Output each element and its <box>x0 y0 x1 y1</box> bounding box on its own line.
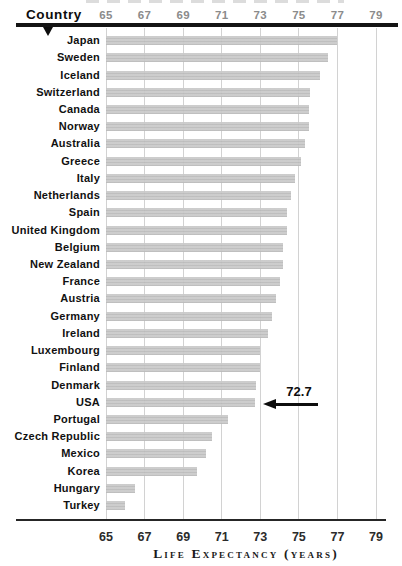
life-expectancy-chart: Country 6567697173757779 JapanSwedenIcel… <box>0 0 402 566</box>
gridline <box>144 28 145 520</box>
top-axis-rule <box>16 23 398 27</box>
bottom-axis-tick-label: 65 <box>92 530 120 544</box>
top-axis-tick-label: 69 <box>170 9 196 21</box>
cropped-title-remnant <box>86 0 344 3</box>
annotation-value: 72.7 <box>279 384 319 399</box>
bar <box>106 415 228 424</box>
country-label: Spain <box>0 206 100 219</box>
country-label: USA <box>0 396 100 409</box>
top-axis-tick-label: 71 <box>209 9 235 21</box>
gridline <box>221 28 222 520</box>
country-label: Portugal <box>0 413 100 426</box>
bar <box>106 260 283 269</box>
top-axis-tick-label: 75 <box>286 9 312 21</box>
country-column-header: Country <box>26 7 82 22</box>
gridline <box>183 28 184 520</box>
bar <box>106 432 212 441</box>
country-label: Belgium <box>0 241 100 254</box>
bottom-axis-tick-label: 73 <box>246 530 274 544</box>
bar <box>106 122 309 131</box>
country-label: Austria <box>0 292 100 305</box>
bottom-axis-tick-label: 75 <box>285 530 313 544</box>
country-label: Luxembourg <box>0 344 100 357</box>
bar <box>106 71 320 80</box>
gridline <box>298 28 299 520</box>
country-label: Hungary <box>0 482 100 495</box>
country-label: United Kingdom <box>0 224 100 237</box>
bottom-axis-tick-label: 69 <box>169 530 197 544</box>
bottom-axis-tick-label: 77 <box>323 530 351 544</box>
bar <box>106 157 301 166</box>
left-arrow-icon <box>263 399 276 409</box>
country-label: Korea <box>0 465 100 478</box>
country-label: Switzerland <box>0 86 100 99</box>
bar <box>106 36 337 45</box>
country-label: New Zealand <box>0 258 100 271</box>
bar <box>106 398 255 407</box>
bar <box>106 139 305 148</box>
bar <box>106 467 197 476</box>
country-label: Turkey <box>0 499 100 512</box>
country-label: Czech Republic <box>0 430 100 443</box>
bar <box>106 363 260 372</box>
country-label: Greece <box>0 155 100 168</box>
country-label: Japan <box>0 34 100 47</box>
bar <box>106 312 272 321</box>
country-label: Norway <box>0 120 100 133</box>
country-label: Italy <box>0 172 100 185</box>
country-label: Germany <box>0 310 100 323</box>
bar <box>106 88 310 97</box>
bar <box>106 346 260 355</box>
bar <box>106 105 309 114</box>
x-axis-title: Life Expectancy (years) <box>96 546 396 562</box>
country-label: Ireland <box>0 327 100 340</box>
bar <box>106 294 276 303</box>
bar <box>106 191 291 200</box>
country-label: Netherlands <box>0 189 100 202</box>
bar <box>106 277 280 286</box>
bottom-axis-rule <box>16 519 386 521</box>
country-label: Canada <box>0 103 100 116</box>
top-axis-tick-label: 73 <box>247 9 273 21</box>
bar <box>106 226 287 235</box>
gridline <box>106 28 107 520</box>
bar <box>106 174 295 183</box>
top-axis-tick-label: 65 <box>93 9 119 21</box>
bar <box>106 484 135 493</box>
country-label: Sweden <box>0 51 100 64</box>
country-label: Mexico <box>0 447 100 460</box>
gridline <box>376 28 377 520</box>
bar <box>106 243 283 252</box>
country-label: Iceland <box>0 69 100 82</box>
bar <box>106 381 256 390</box>
bottom-axis-tick-label: 79 <box>362 530 390 544</box>
country-label: Denmark <box>0 379 100 392</box>
top-axis-tick-label: 67 <box>132 9 158 21</box>
country-label: Finland <box>0 361 100 374</box>
bottom-axis-tick-label: 67 <box>131 530 159 544</box>
gridline <box>337 28 338 520</box>
bar <box>106 53 328 62</box>
top-axis-tick-label: 79 <box>363 9 389 21</box>
bar <box>106 449 206 458</box>
gridline <box>260 28 261 520</box>
country-label: France <box>0 275 100 288</box>
top-axis-tick-label: 77 <box>324 9 350 21</box>
bottom-axis-tick-label: 71 <box>208 530 236 544</box>
bar <box>106 208 287 217</box>
bar <box>106 329 268 338</box>
bar <box>106 501 125 510</box>
left-arrow-shaft <box>275 403 318 406</box>
country-label: Australia <box>0 137 100 150</box>
